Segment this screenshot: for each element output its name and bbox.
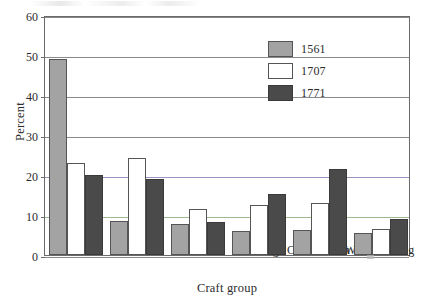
legend-label: 1771 xyxy=(301,86,326,101)
bar xyxy=(232,231,250,255)
plot-area: 0102030405060 xyxy=(44,16,410,256)
bar xyxy=(250,205,268,255)
legend-label: 1561 xyxy=(301,42,326,57)
bar xyxy=(67,163,85,255)
legend-label: 1707 xyxy=(301,64,326,79)
bar xyxy=(49,59,67,255)
bar xyxy=(85,175,103,255)
bar-group xyxy=(49,17,103,255)
bar xyxy=(390,219,408,255)
legend-swatch xyxy=(268,63,293,79)
bar xyxy=(146,179,164,255)
legend-swatch xyxy=(268,85,293,101)
bar xyxy=(128,158,146,255)
legend-item: 1561 xyxy=(268,38,346,60)
y-axis-tick-label-50: 50 xyxy=(26,50,38,65)
bar xyxy=(110,221,128,255)
bar-group xyxy=(110,17,164,255)
scan-artifact-strip xyxy=(30,1,200,6)
bar xyxy=(372,229,390,255)
y-axis-tick-label-30: 30 xyxy=(26,130,38,145)
bar xyxy=(293,230,311,255)
y-axis-tick-label-40: 40 xyxy=(26,90,38,105)
y-axis-tick-label-20: 20 xyxy=(26,170,38,185)
bar xyxy=(171,224,189,255)
bar-group xyxy=(171,17,225,255)
bar-group xyxy=(354,17,408,255)
y-axis-title: Percent xyxy=(13,72,28,172)
legend-swatch xyxy=(268,41,293,57)
bar xyxy=(268,194,286,255)
bar-chart-figure: Percent Craft group 0102030405060 Textil… xyxy=(0,0,423,303)
bar xyxy=(354,233,372,255)
legend-item: 1771 xyxy=(268,82,346,104)
legend-item: 1707 xyxy=(268,60,346,82)
y-axis-tick-label-10: 10 xyxy=(26,210,38,225)
y-axis-tick-label-60: 60 xyxy=(26,10,38,25)
bar xyxy=(207,222,225,255)
y-axis-tick-label-0: 0 xyxy=(32,250,38,265)
chart-legend: 156117071771 xyxy=(268,38,346,104)
y-axis-tick-0 xyxy=(41,257,45,258)
bar xyxy=(329,169,347,255)
bar-groups xyxy=(45,17,409,255)
x-axis-title: Craft group xyxy=(44,281,410,296)
bar xyxy=(311,203,329,255)
bar xyxy=(189,209,207,255)
